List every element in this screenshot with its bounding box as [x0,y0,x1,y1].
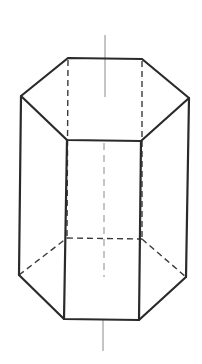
edge-right-vertical [186,98,189,277]
edge-left-vertical [19,96,21,275]
edge-front-left-vertical [64,140,67,319]
hidden-edge-bottom-back [67,238,142,239]
bottom-front-edges [19,275,186,320]
hidden-edge-bottom-back-right [142,239,186,277]
edge-front-right-vertical [139,141,141,320]
hidden-edge-bottom-back-left [19,238,67,275]
hexagonal-prism-diagram [0,0,202,364]
